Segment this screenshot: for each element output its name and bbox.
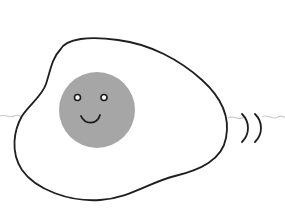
yolk bbox=[59, 72, 135, 148]
fried-egg-illustration bbox=[0, 0, 285, 221]
left-eye bbox=[75, 95, 81, 101]
motion-line-2 bbox=[255, 114, 261, 142]
right-eye bbox=[101, 95, 107, 101]
